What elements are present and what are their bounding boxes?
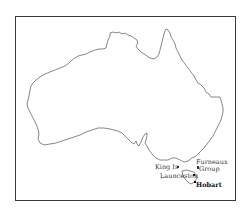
- label-king-island: King Is: [155, 164, 178, 171]
- label-furneaux-line2: Group: [199, 166, 220, 173]
- label-launceston: Launceston: [160, 173, 198, 180]
- australia-map: [0, 0, 250, 209]
- label-hobart: Hobart: [196, 182, 222, 189]
- mainland-coastline: [27, 29, 223, 162]
